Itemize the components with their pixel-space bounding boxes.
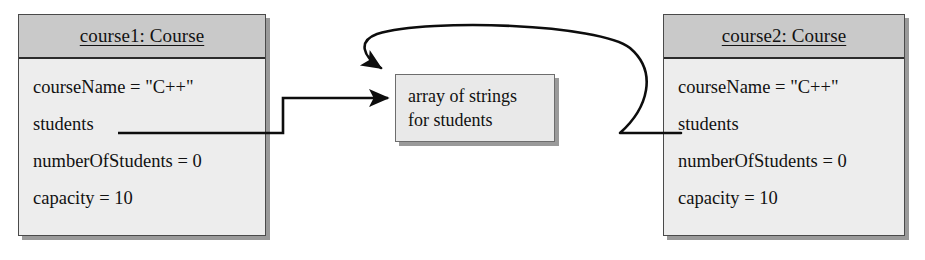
attribute-row-capacity: capacity = 10 bbox=[678, 180, 904, 217]
attribute-row-numberofstudents: numberOfStudents = 0 bbox=[678, 143, 904, 180]
attribute-row-students: students bbox=[678, 106, 904, 143]
attribute-row-students: students bbox=[33, 106, 265, 143]
object-header-course2: course2: Course bbox=[664, 15, 904, 59]
attribute-row-numberofstudents: numberOfStudents = 0 bbox=[33, 143, 265, 180]
object-body-course1: courseName = "C++" students numberOfStud… bbox=[19, 59, 265, 217]
array-note-line-2: for students bbox=[408, 108, 544, 132]
attribute-row-coursename: courseName = "C++" bbox=[678, 69, 904, 106]
object-box-course2[interactable]: course2: Course courseName = "C++" stude… bbox=[663, 14, 905, 236]
object-title-course1: course1: Course bbox=[80, 25, 204, 47]
object-header-course1: course1: Course bbox=[19, 15, 265, 59]
uml-object-diagram: course1: Course courseName = "C++" stude… bbox=[0, 0, 925, 260]
array-note-box[interactable]: array of strings for students bbox=[395, 74, 555, 142]
attribute-row-coursename: courseName = "C++" bbox=[33, 69, 265, 106]
array-note-line-1: array of strings bbox=[408, 84, 544, 108]
object-title-course2: course2: Course bbox=[722, 25, 846, 47]
attribute-row-capacity: capacity = 10 bbox=[33, 180, 265, 217]
object-box-course1[interactable]: course1: Course courseName = "C++" stude… bbox=[18, 14, 266, 236]
object-body-course2: courseName = "C++" students numberOfStud… bbox=[664, 59, 904, 217]
